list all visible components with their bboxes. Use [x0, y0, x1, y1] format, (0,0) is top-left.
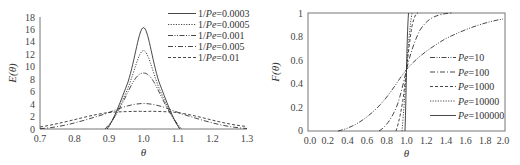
- y-tick: 18: [25, 12, 35, 23]
- x-tick: 0.4: [341, 135, 354, 146]
- legend-item: 1/Pe=0.0003: [168, 8, 249, 19]
- right-x-axis-label: θ: [404, 147, 410, 159]
- svg-text:1/Pe=0.0005: 1/Pe=0.0005: [198, 19, 249, 30]
- x-tick: 0.2: [321, 135, 334, 146]
- curve-pe-1000: [396, 13, 418, 131]
- curve-0-0003: [107, 28, 180, 129]
- x-tick: 1.4: [440, 135, 453, 146]
- x-tick: 0.6: [361, 135, 374, 146]
- legend-item: Pe=10: [430, 52, 484, 63]
- y-tick: 16: [25, 24, 35, 35]
- y-tick: 12: [25, 49, 35, 60]
- right-x-ticks: 0.0 0.2 0.4 0.6 0.8 1.0 1.2 1.4 1.6 1.8 …: [304, 135, 510, 146]
- left-y-axis-label: E(θ): [6, 63, 19, 84]
- y-tick: 0.6: [291, 55, 304, 66]
- x-tick: 1.3: [241, 133, 254, 144]
- svg-text:Pe=100000: Pe=100000: [457, 110, 504, 121]
- svg-text:1/Pe=0.0003: 1/Pe=0.0003: [198, 8, 249, 19]
- legend-item: Pe=1000: [430, 81, 494, 92]
- y-tick: 0.4: [291, 78, 304, 89]
- y-tick: 0: [298, 125, 303, 136]
- curve-0-0005: [107, 51, 180, 129]
- y-tick: 10: [25, 61, 35, 72]
- right-y-ticks: 0 0.2 0.4 0.6 0.8 1: [291, 8, 304, 136]
- right-y-axis-label: F(θ): [269, 62, 282, 83]
- x-tick: 0.9: [103, 133, 116, 144]
- svg-text:1/Pe=0.001: 1/Pe=0.001: [198, 30, 244, 41]
- y-tick: 0.2: [291, 102, 304, 113]
- y-tick: 14: [25, 36, 35, 47]
- x-tick: 1.2: [206, 133, 219, 144]
- left-x-ticks: 0.7 0.8 0.9 1.0 1.1 1.2 1.3: [34, 133, 254, 144]
- y-tick: 1: [298, 8, 303, 19]
- y-tick: 6: [30, 86, 35, 97]
- svg-text:Pe=10000: Pe=10000: [457, 96, 499, 107]
- legend-item: 1/Pe=0.0005: [168, 19, 249, 30]
- svg-text:Pe=100: Pe=100: [457, 67, 489, 78]
- left-chart: 0 2 4 6 8 10 12 14 16 18 0.7 0.8 0.9 1.0…: [6, 8, 253, 158]
- curve-0-01: [40, 111, 247, 127]
- y-tick: 4: [30, 99, 35, 110]
- svg-text:Pe=10: Pe=10: [457, 52, 484, 63]
- svg-text:1/Pe=0.01: 1/Pe=0.01: [198, 52, 239, 63]
- y-tick: 0.8: [291, 31, 304, 42]
- curve-0-001: [105, 73, 182, 129]
- svg-text:1/Pe=0.005: 1/Pe=0.005: [198, 41, 244, 52]
- curve-pe-10000: [402, 13, 412, 131]
- x-tick: 0.7: [34, 133, 47, 144]
- x-tick: 1.0: [400, 135, 413, 146]
- curve-0-005: [40, 104, 247, 129]
- right-chart: 0 0.2 0.4 0.6 0.8 1 0.0 0.2 0.4 0.6 0.8 …: [269, 8, 509, 159]
- left-x-axis-label: θ: [141, 146, 147, 158]
- x-tick: 1.6: [459, 135, 472, 146]
- x-tick: 1.2: [420, 135, 433, 146]
- legend-item: 1/Pe=0.005: [168, 41, 244, 52]
- legend-item: Pe=100000: [430, 110, 504, 121]
- x-tick: 0.8: [68, 133, 81, 144]
- left-legend: 1/Pe=0.0003 1/Pe=0.0005 1/Pe=0.001 1/Pe=…: [168, 8, 249, 63]
- svg-text:Pe=1000: Pe=1000: [457, 81, 494, 92]
- legend-item: 1/Pe=0.001: [168, 30, 244, 41]
- x-tick: 2.0: [497, 135, 510, 146]
- legend-item: Pe=100: [430, 67, 489, 78]
- legend-item: Pe=10000: [430, 96, 499, 107]
- y-tick: 8: [30, 74, 35, 85]
- x-tick: 1.0: [137, 133, 150, 144]
- y-tick: 2: [30, 111, 35, 122]
- curve-pe-100000: [405, 13, 409, 131]
- x-tick: 0.8: [381, 135, 394, 146]
- right-legend: Pe=10 Pe=100 Pe=1000 Pe=10000 Pe=100000: [430, 52, 504, 121]
- x-tick: 1.8: [479, 135, 492, 146]
- legend-item: 1/Pe=0.01: [168, 52, 239, 63]
- x-tick: 1.1: [172, 133, 185, 144]
- left-y-ticks: 0 2 4 6 8 10 12 14 16 18: [25, 12, 35, 135]
- x-tick: 0.0: [304, 135, 317, 146]
